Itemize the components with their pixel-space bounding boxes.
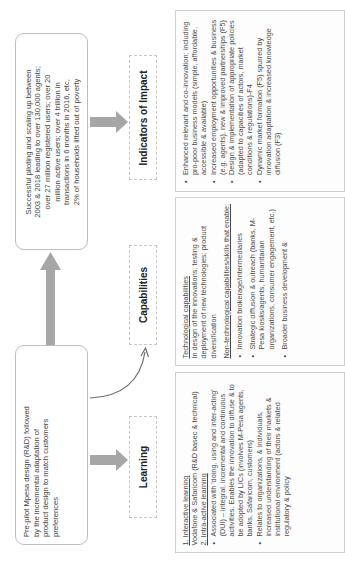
tech-capabilities-heading: Technological capabilities	[181, 203, 190, 358]
impact-bullet: Enhanced relevant and co-innovation; inc…	[181, 16, 209, 175]
capabilities-bullet: Strategic diffusion & outreach (banks, M…	[248, 203, 276, 349]
prepilot-box: Pre-pilot Mpesa design (R&D) followed by…	[15, 345, 88, 545]
learning-bullet: Associated with 'doing, using and inter-…	[209, 378, 255, 536]
arrow-right-learning-icon	[90, 449, 128, 471]
curved-arrow-capabilities-icon	[90, 348, 149, 398]
learning-bullet: Relates to organizations, & individuals,…	[255, 378, 292, 536]
stage-impact-label: Indicators of Impact	[129, 55, 157, 180]
intraactive-learning-heading: 2. Intra-active learning	[199, 378, 208, 545]
stage-capabilities: Capabilities	[129, 245, 157, 345]
arrow-right-impact-icon	[90, 111, 128, 133]
tech-capabilities-text: In design of the innovations; testing & …	[190, 203, 218, 358]
stage-learning-label: Learning	[129, 416, 157, 518]
capabilities-bullet: Innovation brokerage/intermediaries	[235, 203, 244, 349]
outcome-line: over 27 million registered users; over 2…	[42, 33, 52, 250]
impact-details-box: Enhanced relevant and co-innovation; inc…	[175, 10, 345, 192]
outcome-line: million active users; over 4 trillion in	[52, 33, 62, 250]
learning-details-box: 1. Interactive learning Vodafone & Safar…	[175, 372, 345, 553]
outcome-line: 2003 & 2018 leading to over 130,000 agen…	[32, 33, 42, 250]
prepilot-line: product design to match customers	[40, 353, 50, 537]
capabilities-bullet: Broader business development &	[280, 203, 289, 349]
learning-bullet-list: Associated with 'doing, using and inter-…	[209, 378, 292, 545]
capabilities-bullet-list: Innovation brokerage/intermediaries Stra…	[235, 203, 289, 358]
outcome-line: transactions in 6 months in 2016, etc,	[61, 33, 71, 250]
prepilot-line: Pre-pilot Mpesa design (R&D) followed	[21, 353, 31, 537]
impact-bullet: Dynamic market formation (F5) spurred by…	[255, 16, 283, 175]
prepilot-line: by the incremental adaptation of	[31, 353, 41, 537]
impact-bullet: Increased employment opportunities & bus…	[209, 16, 227, 175]
outcome-line: Successful piloting and scaling up betwe…	[23, 33, 33, 250]
outcome-box: Successful piloting and scaling up betwe…	[15, 33, 88, 250]
outcome-line: 2% of households lifted out of poverty	[71, 33, 81, 250]
capabilities-details-box: Technological capabilities In design of …	[175, 197, 345, 366]
interactive-learning-heading: 1. Interactive learning	[181, 378, 190, 545]
impact-bullet-list: Enhanced relevant and co-innovation; inc…	[181, 16, 282, 184]
stage-learning: Learning	[129, 416, 157, 518]
arrow-up-icon	[40, 252, 61, 346]
interactive-learning-text: Vodafone & Safaricom (R&D basec & techni…	[190, 378, 199, 545]
stage-capabilities-label: Capabilities	[129, 245, 157, 345]
nontech-capabilities-heading: Non-technological capabilities/skills th…	[222, 203, 231, 358]
prepilot-line: preferences	[50, 353, 60, 537]
stage-impact: Indicators of Impact	[129, 55, 157, 180]
impact-bullet: Design & implementation of appropriate p…	[227, 16, 255, 175]
